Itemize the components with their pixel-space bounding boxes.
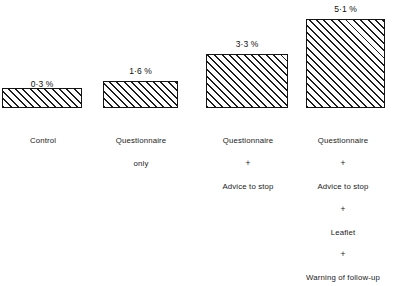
category-line-full-1: Questionnaire [290,135,396,146]
category-label-full-intervention: Questionnaire + Advice to stop + Leaflet… [290,124,396,286]
category-line-full-4: Warning of follow-up [290,272,396,283]
category-line-full-2: Advice to stop [290,181,396,192]
category-plus-full-1: + [290,158,396,169]
category-line-full-3: Leaflet [290,227,396,238]
category-plus-full-3: + [290,249,396,260]
category-plus-full-2: + [290,204,396,215]
bar-value-label-full-intervention: 5·1 % [306,4,385,14]
bar-full-intervention [306,19,385,108]
